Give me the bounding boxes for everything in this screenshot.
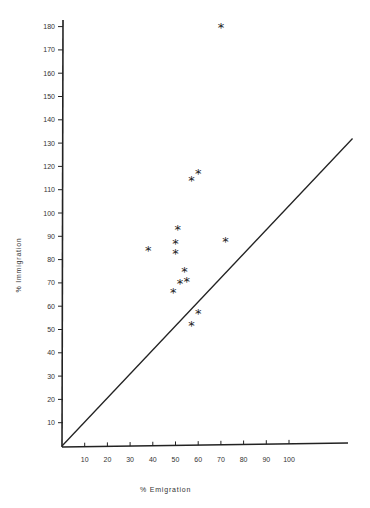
svg-text:10: 10 <box>81 456 89 463</box>
data-point: * <box>145 243 152 258</box>
axes <box>62 20 348 447</box>
y-tick: 170 <box>43 46 63 53</box>
svg-text:90: 90 <box>47 233 55 240</box>
svg-text:20: 20 <box>47 396 55 403</box>
svg-text:60: 60 <box>194 456 202 463</box>
svg-text:120: 120 <box>43 163 55 170</box>
svg-text:130: 130 <box>43 140 55 147</box>
y-tick: 100 <box>43 210 63 217</box>
y-axis <box>62 20 63 447</box>
svg-text:50: 50 <box>172 456 180 463</box>
data-point: * <box>195 306 202 321</box>
data-point: * <box>184 274 191 289</box>
x-tick: 30 <box>126 442 134 463</box>
y-tick: 30 <box>47 373 63 380</box>
y-tick: 70 <box>47 279 63 286</box>
data-point: * <box>172 246 179 261</box>
y-tick: 90 <box>47 233 63 240</box>
svg-text:80: 80 <box>240 456 248 463</box>
svg-text:140: 140 <box>43 116 55 123</box>
svg-text:100: 100 <box>43 210 55 217</box>
svg-text:20: 20 <box>104 456 112 463</box>
data-point: * <box>170 285 177 300</box>
data-point: * <box>218 20 225 35</box>
y-axis-label: % Immigration <box>15 237 22 292</box>
x-ticks: 102030405060708090100 <box>81 440 295 463</box>
x-tick: 10 <box>81 443 89 463</box>
svg-text:110: 110 <box>44 186 55 193</box>
x-tick: 20 <box>104 442 112 463</box>
data-point: * <box>177 276 184 291</box>
y-ticks: 1020304050607080901001101201301401501601… <box>43 23 63 426</box>
y-tick: 110 <box>44 186 63 193</box>
y-tick: 130 <box>43 140 63 147</box>
data-point: * <box>222 234 229 249</box>
x-axis-label: % Emigration <box>140 486 191 493</box>
y-tick: 160 <box>43 70 63 77</box>
x-axis <box>62 443 348 447</box>
svg-text:150: 150 <box>43 93 55 100</box>
svg-text:100: 100 <box>283 456 295 463</box>
y-tick: 10 <box>47 419 63 426</box>
scatter-chart: 1020304050607080901001101201301401501601… <box>0 0 370 508</box>
reference-line <box>62 138 353 446</box>
y-tick: 150 <box>43 93 63 100</box>
data-point: * <box>195 166 202 181</box>
y-tick: 60 <box>47 303 63 310</box>
y-tick: 50 <box>47 326 63 333</box>
svg-text:60: 60 <box>47 303 55 310</box>
svg-text:170: 170 <box>43 46 55 53</box>
svg-text:50: 50 <box>47 326 55 333</box>
svg-text:10: 10 <box>47 419 55 426</box>
y-tick: 20 <box>47 396 63 403</box>
data-point: * <box>188 318 195 333</box>
y-tick: 40 <box>47 349 63 356</box>
svg-text:90: 90 <box>262 456 270 463</box>
svg-text:70: 70 <box>217 456 225 463</box>
y-tick: 80 <box>47 256 63 263</box>
svg-text:40: 40 <box>47 349 55 356</box>
y-tick: 180 <box>43 23 63 30</box>
svg-text:160: 160 <box>43 70 55 77</box>
svg-text:180: 180 <box>43 23 55 30</box>
y-tick: 140 <box>43 116 63 123</box>
data-point: * <box>175 222 182 237</box>
svg-text:40: 40 <box>149 456 157 463</box>
svg-text:80: 80 <box>47 256 55 263</box>
svg-text:30: 30 <box>126 456 134 463</box>
svg-text:70: 70 <box>47 279 55 286</box>
data-points: ************** <box>145 20 229 333</box>
svg-text:30: 30 <box>47 373 55 380</box>
data-point: * <box>188 173 195 188</box>
y-tick: 120 <box>43 163 63 170</box>
